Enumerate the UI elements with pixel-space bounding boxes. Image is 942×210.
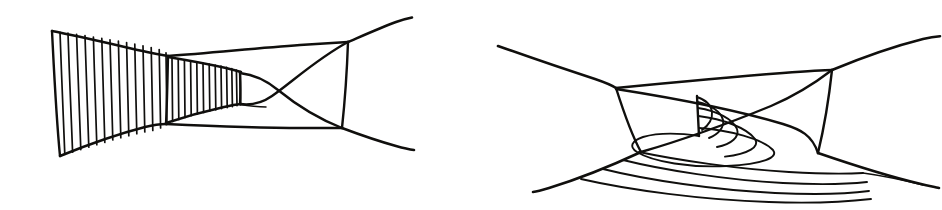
upper-right-tail	[832, 36, 940, 70]
lower-nested-arcs	[581, 152, 871, 203]
funnel-mouth-edge	[52, 31, 60, 156]
funnel-top-outline	[52, 18, 412, 56]
lower-crossing-strand	[240, 42, 348, 104]
nested-spiral-arcs	[697, 97, 774, 166]
right-figure-panel	[471, 0, 942, 210]
box-right-edge	[818, 70, 832, 153]
figure-sheet	[0, 0, 942, 210]
box-top-edge	[616, 70, 832, 88]
lower-right-tail	[818, 153, 939, 188]
box-left-edge	[616, 88, 641, 152]
left-figure-panel	[0, 0, 471, 210]
box-right-edge	[342, 42, 348, 128]
lower-arc-4	[581, 179, 871, 203]
upper-left-tail	[498, 46, 616, 88]
spiral-leaf-figure	[471, 0, 942, 210]
spiral-arc-5	[699, 128, 774, 166]
hatched-funnel-figure	[0, 0, 471, 210]
lower-left-tail	[533, 152, 641, 192]
outer-hatch-band	[60, 32, 167, 154]
lower-arc-merge	[863, 173, 923, 185]
